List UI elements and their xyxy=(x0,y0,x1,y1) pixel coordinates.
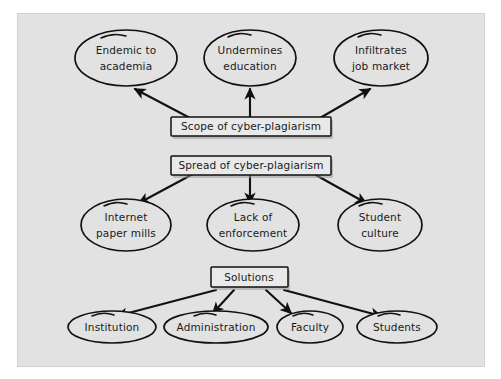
node-endemic-shape xyxy=(75,30,177,86)
box-spread-label: Spread of cyber-plagiarism xyxy=(178,159,323,171)
node-infiltrates[interactable]: Infiltrates job market xyxy=(334,30,428,86)
box-solutions-label: Solutions xyxy=(224,271,274,283)
node-enforcement-line2: enforcement xyxy=(219,227,288,239)
node-enforcement[interactable]: Lack of enforcement xyxy=(207,199,299,251)
node-administration[interactable]: Administration xyxy=(164,311,268,343)
node-student-culture[interactable]: Student culture xyxy=(338,199,422,251)
node-faculty-label: Faculty xyxy=(291,321,329,333)
node-infiltrates-line2: job market xyxy=(351,60,410,72)
edge-scope-to-endemic xyxy=(135,89,190,118)
edge-spread-to-paper-mills xyxy=(139,174,193,203)
node-faculty[interactable]: Faculty xyxy=(277,311,343,343)
node-students[interactable]: Students xyxy=(357,311,437,343)
node-undermines[interactable]: Undermines education xyxy=(204,30,296,86)
page-canvas: Endemic to academia Undermines education… xyxy=(0,0,501,379)
node-institution[interactable]: Institution xyxy=(68,311,156,343)
edges-scope-group xyxy=(135,89,370,118)
edge-solutions-to-faculty xyxy=(266,290,291,313)
node-paper-mills-line2: paper mills xyxy=(96,227,156,239)
node-infiltrates-shape xyxy=(334,30,428,86)
box-scope[interactable]: Scope of cyber-plagiarism xyxy=(171,117,333,139)
box-scope-label: Scope of cyber-plagiarism xyxy=(181,120,321,132)
node-students-label: Students xyxy=(373,321,421,333)
node-student-culture-line1: Student xyxy=(359,211,401,223)
node-paper-mills-shape xyxy=(81,199,171,251)
node-endemic-line2: academia xyxy=(100,60,153,72)
node-student-culture-shape xyxy=(338,199,422,251)
node-enforcement-line1: Lack of xyxy=(234,211,273,223)
node-enforcement-shape xyxy=(207,199,299,251)
edge-spread-to-student-culture xyxy=(314,174,366,203)
node-undermines-line1: Undermines xyxy=(218,44,283,56)
node-undermines-line2: education xyxy=(223,60,276,72)
edge-solutions-to-administration xyxy=(213,290,234,313)
node-administration-label: Administration xyxy=(177,321,256,333)
node-paper-mills-line1: Internet xyxy=(105,211,148,223)
node-institution-label: Institution xyxy=(85,321,140,333)
node-undermines-shape xyxy=(204,30,296,86)
box-solutions[interactable]: Solutions xyxy=(211,267,290,290)
node-endemic-line1: Endemic to xyxy=(96,44,157,56)
edge-scope-to-infiltrates xyxy=(320,89,370,118)
node-student-culture-line2: culture xyxy=(361,227,399,239)
box-spread[interactable]: Spread of cyber-plagiarism xyxy=(171,156,333,178)
node-endemic[interactable]: Endemic to academia xyxy=(75,30,177,86)
concept-map-diagram: Endemic to academia Undermines education… xyxy=(0,0,501,379)
node-paper-mills[interactable]: Internet paper mills xyxy=(81,199,171,251)
node-infiltrates-line1: Infiltrates xyxy=(355,44,407,56)
edges-solutions-group xyxy=(117,290,381,316)
